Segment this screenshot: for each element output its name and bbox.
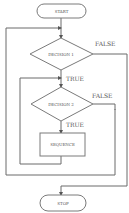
label-d2-true: TRUE [66, 121, 84, 128]
label-d2-false: FALSE [92, 92, 112, 99]
node-decision1-label: DECISION 1 [48, 52, 74, 57]
node-stop: STOP [40, 195, 86, 211]
label-d1-false: FALSE [95, 40, 115, 47]
node-decision2: DECISION 2 [31, 87, 93, 121]
edge-d2-false [93, 104, 115, 110]
label-d1-true: TRUE [66, 75, 84, 82]
node-start-label: START [55, 9, 69, 14]
node-sequence-label: SEQUENCE [50, 142, 75, 147]
flowchart-diagram: START DECISION 1 DECISION 2 SEQUENCE STO… [0, 0, 129, 213]
node-decision1: DECISION 1 [30, 38, 93, 70]
node-start: START [37, 4, 86, 18]
node-stop-label: STOP [57, 201, 69, 206]
node-sequence: SEQUENCE [40, 133, 85, 156]
node-decision2-label: DECISION 2 [48, 102, 74, 107]
